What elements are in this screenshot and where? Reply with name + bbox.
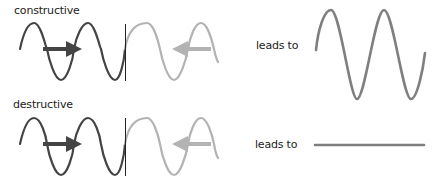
destructive-incoming-wave (20, 118, 125, 175)
interference-diagram (0, 0, 441, 190)
constructive-reflected-wave (125, 23, 218, 80)
constructive-result-wave (316, 10, 425, 99)
destructive-reflected-wave (125, 118, 218, 175)
constructive-incoming-wave (20, 23, 125, 80)
